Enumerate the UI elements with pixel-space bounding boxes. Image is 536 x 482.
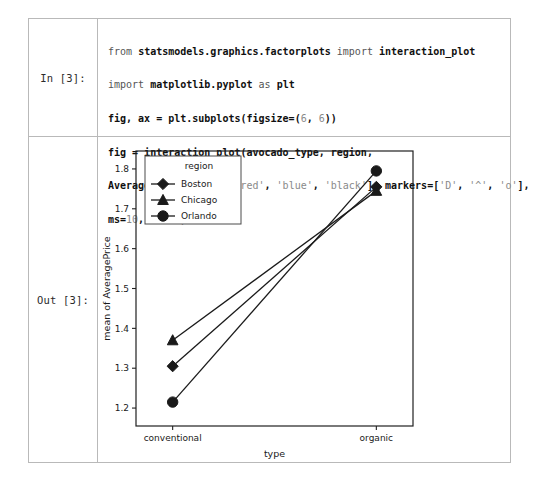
data-point-orlando-1	[371, 166, 381, 176]
notebook-output-row: Out [3]: 1.21.31.41.51.61.71.8convention…	[29, 137, 510, 462]
chart-legend: regionBostonChicagoOrlando	[145, 156, 241, 224]
code-token-from: from	[108, 46, 132, 57]
code-cell[interactable]: from statsmodels.graphics.factorplots im…	[98, 19, 536, 136]
y-tick-label-4: 1.6	[115, 244, 130, 254]
code-token-plt: plt	[277, 79, 295, 90]
y-tick-label-3: 1.5	[115, 284, 129, 294]
code-line-1: from statsmodels.graphics.factorplots im…	[108, 44, 530, 61]
x-axis-label: type	[264, 448, 285, 459]
code-token-import2: import	[108, 79, 144, 90]
notebook-cell-table: In [3]: from statsmodels.graphics.factor…	[28, 18, 511, 463]
code-token-as: as	[259, 79, 271, 90]
y-tick-label-5: 1.7	[115, 204, 129, 214]
interaction-plot-svg: 1.21.31.41.51.61.71.8conventionalorganic…	[98, 137, 511, 461]
data-point-orlando-0	[167, 397, 177, 407]
code-line-3: fig, ax = plt.subplots(figsize=(6, 6))	[108, 111, 530, 128]
code-line-2: import matplotlib.pyplot as plt	[108, 77, 530, 94]
legend-marker-orlando	[158, 211, 168, 221]
legend-label-boston: Boston	[181, 179, 212, 189]
code-token-subplots: fig, ax = plt.subplots(figsize=(	[108, 113, 301, 124]
code-token-comma1: ,	[307, 113, 319, 124]
x-tick-label-0: conventional	[144, 433, 202, 443]
code-token-module: statsmodels.graphics.factorplots	[138, 46, 331, 57]
notebook-input-row: In [3]: from statsmodels.graphics.factor…	[29, 19, 510, 137]
y-tick-label-0: 1.2	[115, 403, 129, 413]
legend-label-orlando: Orlando	[181, 211, 217, 221]
code-token-parens: ))	[325, 113, 337, 124]
interaction-plot-figure: 1.21.31.41.51.61.71.8conventionalorganic…	[98, 137, 510, 462]
output-prompt-label: Out [3]:	[29, 137, 98, 462]
legend-label-chicago: Chicago	[181, 195, 218, 205]
x-tick-label-1: organic	[360, 433, 393, 443]
y-tick-label-6: 1.8	[115, 164, 130, 174]
data-point-chicago-0	[167, 335, 178, 345]
legend-title: region	[185, 161, 213, 171]
code-token-interaction-plot: interaction_plot	[379, 46, 475, 57]
code-token-pyplot: matplotlib.pyplot	[150, 79, 252, 90]
code-token-import: import	[337, 46, 373, 57]
output-cell: 1.21.31.41.51.61.71.8conventionalorganic…	[98, 137, 510, 462]
y-tick-label-1: 1.3	[115, 363, 129, 373]
code-token-markers-end: ],	[517, 180, 529, 191]
input-prompt-label: In [3]:	[29, 19, 98, 136]
y-tick-label-2: 1.4	[115, 324, 130, 334]
y-axis-label: mean of AveragePrice	[101, 236, 112, 340]
